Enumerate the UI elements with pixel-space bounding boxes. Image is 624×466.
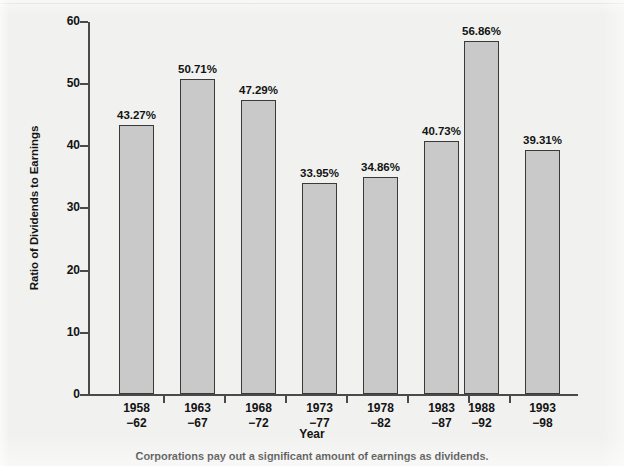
bar-value-label: 43.27% bbox=[99, 109, 174, 121]
y-axis-tick-label-wrap: 60 bbox=[0, 15, 80, 27]
bar-value-label: 47.29% bbox=[221, 84, 296, 96]
y-axis-tick-label: 50 bbox=[44, 77, 80, 89]
y-axis-line bbox=[88, 22, 90, 396]
y-axis-tick-label-wrap: 50 bbox=[0, 77, 80, 89]
y-axis-tick-label-wrap: 0 bbox=[0, 388, 80, 400]
y-axis-tick bbox=[80, 21, 88, 23]
bar-1983-87 bbox=[424, 141, 459, 394]
y-axis-tick-label: 30 bbox=[44, 201, 80, 213]
bar-chart-plot: 60 50 40 30 20 10 0 Ratio of Dividends t… bbox=[0, 0, 624, 466]
bar-1958-62 bbox=[119, 125, 154, 394]
y-axis-tick-label: 20 bbox=[44, 264, 80, 276]
bar-value-label: 56.86% bbox=[444, 25, 519, 37]
bar-value-label: 34.86% bbox=[343, 161, 418, 173]
y-axis-tick-label: 40 bbox=[44, 139, 80, 151]
bar-1993-98 bbox=[525, 150, 560, 394]
y-axis-tick bbox=[80, 83, 88, 85]
y-axis-tick-label: 10 bbox=[44, 326, 80, 338]
y-axis-tick-label: 0 bbox=[44, 388, 80, 400]
y-axis-tick-label: 60 bbox=[44, 15, 80, 27]
y-axis-tick bbox=[80, 207, 88, 209]
y-axis-tick-label-wrap: 20 bbox=[0, 264, 80, 276]
bar-value-label: 50.71% bbox=[160, 63, 235, 75]
bar-1973-77 bbox=[302, 183, 337, 394]
bar-1988-92 bbox=[464, 41, 499, 394]
bar-1968-72 bbox=[241, 100, 276, 394]
y-axis-title: Ratio of Dividends to Earnings bbox=[28, 108, 40, 308]
bar-1963-67 bbox=[180, 79, 215, 394]
figure-caption: Corporations pay out a significant amoun… bbox=[0, 450, 624, 462]
figure-panel: 60 50 40 30 20 10 0 Ratio of Dividends t… bbox=[0, 0, 624, 466]
bar-1978-82 bbox=[363, 177, 398, 394]
y-axis-tick bbox=[80, 332, 88, 334]
y-axis-tick-label-wrap: 40 bbox=[0, 139, 80, 151]
y-axis-tick-label-wrap: 30 bbox=[0, 201, 80, 213]
bar-value-label: 39.31% bbox=[505, 134, 580, 146]
y-axis-tick-label-wrap: 10 bbox=[0, 326, 80, 338]
y-axis-tick bbox=[80, 145, 88, 147]
y-axis-tick bbox=[80, 270, 88, 272]
x-axis-title: Year bbox=[0, 427, 624, 441]
x-axis-line bbox=[88, 394, 578, 396]
y-axis-tick bbox=[80, 394, 88, 396]
